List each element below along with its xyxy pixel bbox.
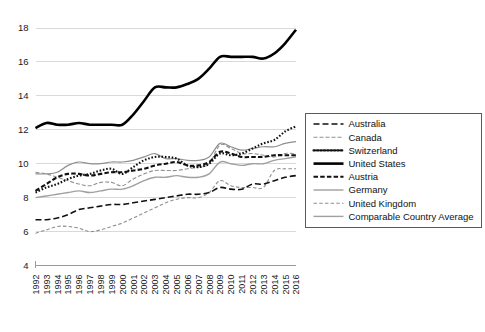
legend-label-australia: Australia xyxy=(349,118,387,129)
x-tick-label: 2005 xyxy=(172,275,182,295)
x-tick-label: 1992 xyxy=(31,275,41,295)
x-tick-label: 2009 xyxy=(215,275,225,295)
legend-label-united-states: United States xyxy=(349,158,406,169)
x-tick-label: 2013 xyxy=(259,275,269,295)
x-tick-label: 1999 xyxy=(107,275,117,295)
x-tick-label: 1997 xyxy=(85,275,95,295)
x-tick-label: 2007 xyxy=(194,275,204,295)
x-tick-label: 2006 xyxy=(183,275,193,295)
y-tick-label: 14 xyxy=(18,90,29,101)
series-line-united-states xyxy=(36,30,297,128)
series-line-united-kingdom xyxy=(36,169,297,234)
legend-label-comparable-country-average: Comparable Country Average xyxy=(349,211,474,222)
x-tick-label: 1993 xyxy=(42,275,52,295)
x-tick-label: 2001 xyxy=(129,275,139,295)
y-tick-label: 4 xyxy=(23,260,28,271)
y-tick-label: 16 xyxy=(18,56,29,67)
legend-label-germany: Germany xyxy=(349,184,388,195)
x-tick-label: 2003 xyxy=(150,275,160,295)
x-tick-label: 1996 xyxy=(74,275,84,295)
x-tick-label: 2004 xyxy=(161,275,171,295)
x-tick-label: 2002 xyxy=(139,275,149,295)
x-tick-label: 2011 xyxy=(237,275,247,294)
y-tick-label: 10 xyxy=(18,158,29,169)
x-axis-tick-labels: 1992199319941995199619971998199920002001… xyxy=(31,275,302,295)
legend-label-canada: Canada xyxy=(349,132,383,143)
x-tick-label: 2012 xyxy=(248,275,258,295)
series-line-canada xyxy=(36,144,297,186)
x-tick-label: 2016 xyxy=(291,275,301,295)
series-line-switzerland xyxy=(36,126,297,192)
x-tick-label: 2000 xyxy=(118,275,128,295)
legend-label-switzerland: Switzerland xyxy=(349,145,398,156)
y-tick-label: 8 xyxy=(23,192,28,203)
x-tick-label: 1998 xyxy=(96,275,106,295)
chart-container: 4681012141618 19921993199419951996199719… xyxy=(0,0,485,332)
legend-label-united-kingdom: United Kingdom xyxy=(349,198,417,209)
x-tick-label: 2014 xyxy=(270,275,280,295)
y-tick-label: 18 xyxy=(18,22,29,33)
x-tick-label: 2010 xyxy=(226,275,236,295)
y-tick-label: 6 xyxy=(23,226,28,237)
y-axis-tick-labels: 4681012141618 xyxy=(18,22,29,271)
y-tick-label: 12 xyxy=(18,124,29,135)
x-tick-label: 1995 xyxy=(63,275,73,295)
x-tick-label: 2015 xyxy=(281,275,291,295)
x-tick-label: 1994 xyxy=(53,275,63,295)
chart-legend: AustraliaCanadaSwitzerlandUnited StatesA… xyxy=(306,114,482,228)
legend-label-austria: Austria xyxy=(349,171,379,182)
line-chart: 4681012141618 19921993199419951996199719… xyxy=(0,0,485,332)
x-tick-label: 2008 xyxy=(205,275,215,295)
data-series-group xyxy=(36,30,297,234)
